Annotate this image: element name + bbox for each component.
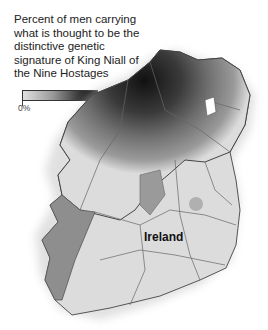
region-east-spot <box>189 197 203 211</box>
country-label-ireland: Ireland <box>144 230 183 244</box>
ireland-map <box>0 0 268 330</box>
